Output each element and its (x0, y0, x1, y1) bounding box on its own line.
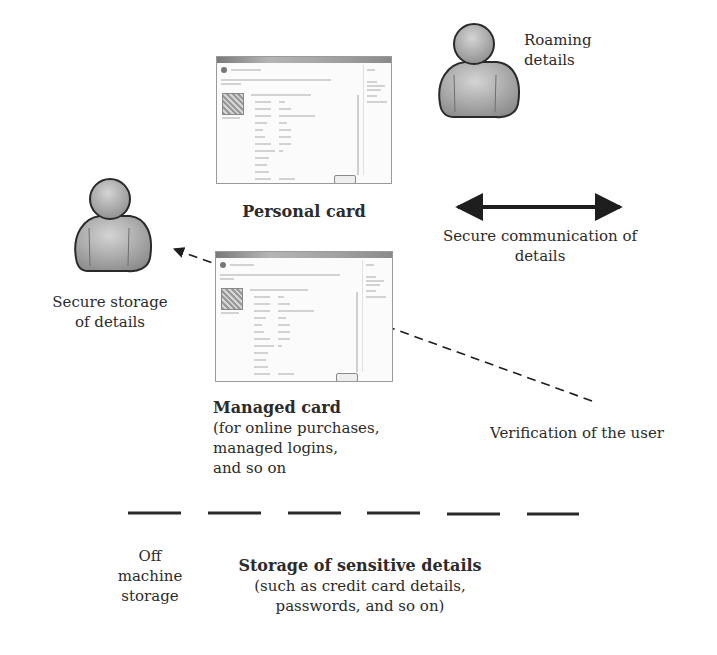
secure-storage-person-icon (75, 179, 151, 271)
card-window-titlebar (216, 252, 392, 258)
managed-card-title: Managed card (213, 398, 379, 418)
roaming-person-icon (439, 24, 519, 117)
card-window-titlebar (217, 57, 391, 63)
personal-card-title: Personal card (216, 202, 392, 222)
sensitive-storage-title: Storage of sensitive details (220, 556, 500, 576)
card-back-icon (220, 262, 226, 268)
card-photo-icon (222, 93, 244, 115)
roaming-details-label: Roaming details (524, 30, 592, 70)
card-ok-button (336, 373, 358, 382)
managed-card-label: Managed card (for online purchases, mana… (213, 398, 379, 478)
card-photo-icon (221, 288, 243, 310)
sensitive-storage-label: Storage of sensitive details (such as cr… (220, 556, 500, 616)
card-back-icon (221, 67, 227, 73)
personal-card-screenshot (216, 56, 392, 184)
secure-storage-label: Secure storage of details (20, 292, 200, 332)
secure-communication-label: Secure communication of details (420, 226, 660, 266)
off-machine-storage-label: Off machine storage (105, 546, 195, 606)
managed-card-screenshot (215, 251, 393, 382)
verification-label: Verification of the user (490, 423, 664, 443)
card-ok-button (334, 175, 356, 184)
storage-boundary-dashed-line (128, 513, 579, 514)
